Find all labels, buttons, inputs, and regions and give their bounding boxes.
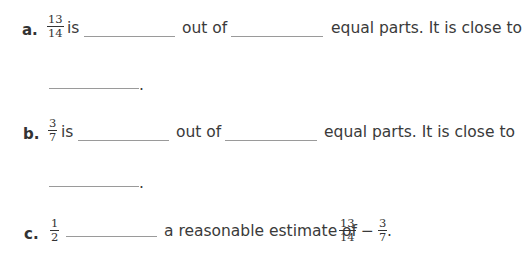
answer-blank-2[interactable] bbox=[231, 36, 323, 37]
period: . bbox=[387, 222, 392, 240]
is-text: is bbox=[61, 123, 73, 141]
estimate-text: a reasonable estimate of bbox=[164, 222, 357, 240]
fraction: 3 7 bbox=[48, 118, 57, 143]
tail-text: equal parts. It is close to bbox=[324, 123, 515, 141]
item-label: c. bbox=[24, 225, 39, 243]
answer-blank[interactable] bbox=[66, 236, 157, 237]
answer-blank-1[interactable] bbox=[78, 140, 169, 141]
minus-sign: − bbox=[361, 222, 374, 240]
fraction: 1 2 bbox=[50, 218, 59, 243]
fraction: 13 14 bbox=[47, 14, 64, 39]
item-label: a. bbox=[22, 21, 38, 39]
answer-blank-3[interactable] bbox=[49, 88, 139, 89]
expr-fraction-b: 3 7 bbox=[378, 218, 387, 243]
answer-blank-2[interactable] bbox=[225, 140, 317, 141]
tail-text: equal parts. It is close to bbox=[331, 19, 522, 37]
answer-blank-3[interactable] bbox=[49, 186, 139, 187]
period: . bbox=[139, 76, 144, 94]
out-of-text: out of bbox=[182, 19, 227, 37]
out-of-text: out of bbox=[176, 123, 221, 141]
item-label: b. bbox=[23, 125, 39, 143]
period: . bbox=[139, 174, 144, 192]
is-text: is bbox=[67, 19, 79, 37]
expr-fraction-a: 13 14 bbox=[339, 218, 356, 243]
answer-blank-1[interactable] bbox=[84, 36, 175, 37]
